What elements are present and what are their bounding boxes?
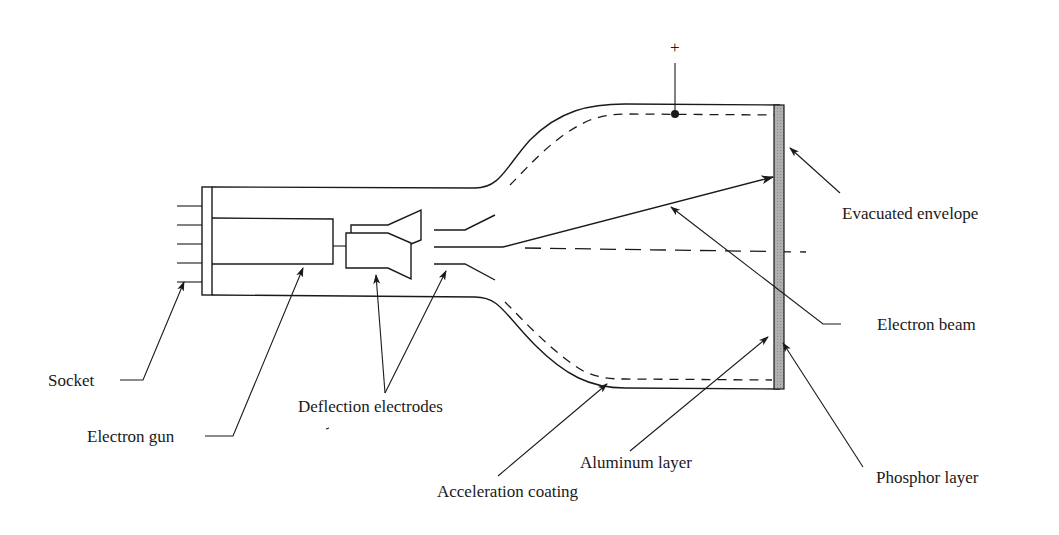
phosphor-screen	[774, 105, 784, 389]
stray-mark	[326, 428, 329, 429]
label-phosphor-layer: Phosphor layer	[876, 468, 979, 487]
label-electron-gun: Electron gun	[87, 427, 175, 446]
center-axis	[525, 248, 806, 252]
label-aluminum-layer: Aluminum layer	[580, 453, 692, 472]
label-socket: Socket	[48, 371, 95, 390]
crt-diagram: + Socket Electron gun Deflection electro…	[0, 0, 1059, 535]
acceleration-coating	[505, 114, 775, 380]
leader-lines	[120, 148, 863, 476]
socket	[177, 187, 212, 295]
electron-gun	[212, 218, 346, 264]
electron-beam	[434, 177, 773, 247]
anode-terminal: +	[670, 38, 680, 118]
plus-terminal-symbol: +	[670, 38, 680, 57]
label-deflection-electrodes: Deflection electrodes	[298, 397, 443, 416]
label-evacuated-envelope: Evacuated envelope	[842, 204, 978, 223]
deflection-plates-vertical	[346, 210, 421, 279]
label-electron-beam: Electron beam	[877, 315, 976, 334]
label-acceleration-coating: Acceleration coating	[437, 482, 579, 501]
